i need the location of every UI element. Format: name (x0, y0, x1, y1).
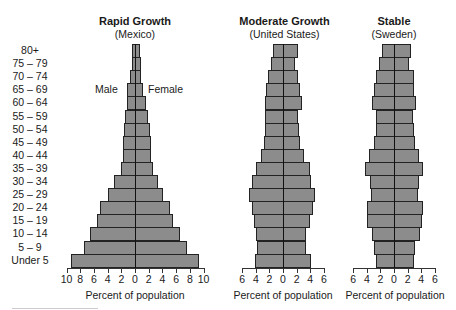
age-group-label: 5 – 9 (4, 241, 56, 254)
bar-female (394, 110, 413, 124)
bar-female (135, 110, 148, 124)
bar-male (265, 110, 284, 124)
age-group-label: 60 – 64 (4, 96, 56, 109)
bar-male (376, 123, 395, 137)
bar-male (372, 227, 395, 241)
bar-female (394, 83, 414, 97)
age-group-label: 55 – 59 (4, 110, 56, 123)
bar-female (394, 123, 414, 137)
bar-male (257, 241, 284, 255)
bar-female (135, 83, 143, 97)
bar-female (135, 227, 180, 241)
bar-male (374, 241, 395, 255)
bar-female (394, 201, 423, 215)
age-group-label: 35 – 39 (4, 162, 56, 175)
age-group-label: 50 – 54 (4, 123, 56, 136)
bar-male (374, 136, 395, 150)
footer-rule (12, 308, 98, 309)
age-group-label: 75 – 79 (4, 57, 56, 70)
bar-female (394, 149, 419, 163)
bar-female (135, 254, 199, 268)
bar-male (268, 70, 284, 84)
chart-title-us: Moderate Growth (232, 15, 337, 27)
chart-title-sweden: Stable (356, 15, 432, 27)
chart-title-mexico: Rapid Growth (85, 15, 185, 27)
bar-male (266, 83, 284, 97)
chart-subtitle-sweden: (Sweden) (356, 28, 432, 40)
bar-male (271, 57, 284, 71)
bar-female (135, 175, 158, 189)
bar-male (365, 162, 395, 176)
bar-female (283, 201, 313, 215)
bar-female (283, 70, 298, 84)
bar-female (135, 201, 170, 215)
bar-female (135, 188, 163, 202)
bar-female (135, 214, 173, 228)
bar-male (71, 254, 136, 268)
bar-male (249, 188, 284, 202)
bar-female (283, 214, 310, 228)
bar-male (90, 227, 136, 241)
bar-male (261, 149, 284, 163)
age-group-label: 65 – 69 (4, 83, 56, 96)
bar-male (367, 214, 395, 228)
bar-male (121, 162, 136, 176)
bar-male (379, 57, 395, 71)
age-group-label: 15 – 19 (4, 214, 56, 227)
bar-female (283, 44, 298, 58)
bar-female (135, 136, 151, 150)
bar-female (283, 162, 310, 176)
male-label: Male (95, 83, 118, 95)
bar-female (394, 57, 409, 71)
bar-female (283, 175, 311, 189)
bar-male (376, 254, 395, 268)
bar-female (394, 254, 414, 268)
bar-female (135, 149, 151, 163)
x-tick-label: 10 (194, 273, 214, 285)
bar-female (135, 162, 153, 176)
center-axis-line (283, 44, 284, 268)
bar-male (252, 175, 284, 189)
bar-female (283, 123, 299, 137)
bar-male (265, 96, 284, 110)
bar-male (367, 201, 395, 215)
bar-male (252, 201, 284, 215)
age-group-label: Under 5 (4, 254, 56, 267)
bar-female (394, 175, 419, 189)
bar-female (394, 214, 422, 228)
bar-female (394, 162, 423, 176)
bar-male (108, 188, 136, 202)
bar-female (283, 96, 302, 110)
age-group-label: 80+ (4, 44, 56, 57)
bar-male (264, 136, 284, 150)
bar-female (283, 110, 298, 124)
bar-male (265, 123, 284, 137)
age-group-label: 20 – 24 (4, 201, 56, 214)
bar-female (283, 241, 306, 255)
bar-female (394, 136, 415, 150)
bar-female (394, 241, 415, 255)
bar-male (376, 70, 395, 84)
bar-female (135, 241, 187, 255)
bar-female (283, 188, 315, 202)
bar-female (283, 254, 311, 268)
bar-male (84, 241, 136, 255)
bar-male (100, 201, 136, 215)
bar-male (256, 227, 284, 241)
bar-male (374, 83, 395, 97)
age-group-label: 45 – 49 (4, 136, 56, 149)
bar-female (283, 57, 295, 71)
center-axis-line (394, 44, 395, 268)
x-axis-label-mexico: Percent of population (80, 289, 190, 301)
bar-male (255, 254, 284, 268)
bar-female (135, 96, 146, 110)
bar-male (256, 162, 284, 176)
bar-female (283, 136, 300, 150)
bar-female (283, 83, 300, 97)
chart-subtitle-mexico: (Mexico) (85, 28, 185, 40)
bar-male (371, 188, 395, 202)
age-group-label: 40 – 44 (4, 149, 56, 162)
bar-male (369, 149, 395, 163)
bar-female (394, 188, 418, 202)
bar-male (370, 175, 395, 189)
